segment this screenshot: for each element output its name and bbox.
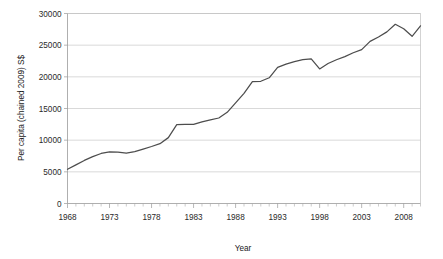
y-tick-labels-group: 050001000015000200002500030000	[39, 10, 62, 209]
y-tick-label: 5000	[43, 168, 62, 177]
series-line-per-capita-gdp	[68, 24, 421, 169]
y-tick-label: 30000	[39, 10, 62, 19]
x-tick-marks-group	[64, 14, 421, 209]
x-tick-label: 1983	[184, 213, 203, 222]
y-axis-title: Per capita (chained 2009) S$	[17, 55, 26, 161]
x-tick-label: 1968	[58, 213, 77, 222]
x-tick-label: 2003	[353, 213, 372, 222]
y-tick-label: 10000	[39, 136, 62, 145]
x-tick-label: 1988	[226, 213, 245, 222]
x-tick-label: 1998	[311, 213, 330, 222]
y-tick-label: 15000	[39, 105, 62, 114]
x-tick-label: 1978	[142, 213, 161, 222]
x-tick-label: 1993	[269, 213, 288, 222]
x-axis-title: Year	[235, 244, 252, 253]
line-chart: 050001000015000200002500030000 196819731…	[0, 0, 443, 259]
x-tick-labels-group: 196819731978198319881993199820032008	[58, 213, 413, 222]
y-tick-label: 25000	[39, 41, 62, 50]
data-series-group	[68, 24, 421, 169]
y-tick-label: 0	[57, 200, 62, 209]
x-tick-label: 2008	[395, 213, 414, 222]
y-tick-label: 20000	[39, 73, 62, 82]
x-tick-label: 1973	[100, 213, 119, 222]
chart-container: 050001000015000200002500030000 196819731…	[0, 0, 443, 259]
